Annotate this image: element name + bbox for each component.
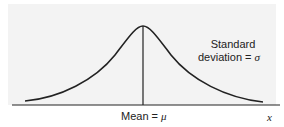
sigma-symbol: σ (255, 51, 260, 63)
mean-label: Mean = μ (121, 110, 167, 122)
normal-distribution-diagram: Standard deviation = σ Mean = μ x (0, 0, 284, 127)
mu-symbol: μ (161, 110, 167, 122)
mean-label-text: Mean = (121, 110, 161, 122)
x-axis-label: x (267, 111, 272, 123)
sd-label-text: deviation = (198, 51, 255, 63)
sd-label-line2: deviation = σ (198, 51, 260, 63)
bell-curve-graphic (0, 0, 284, 127)
sd-label-line1: Standard (208, 38, 258, 50)
